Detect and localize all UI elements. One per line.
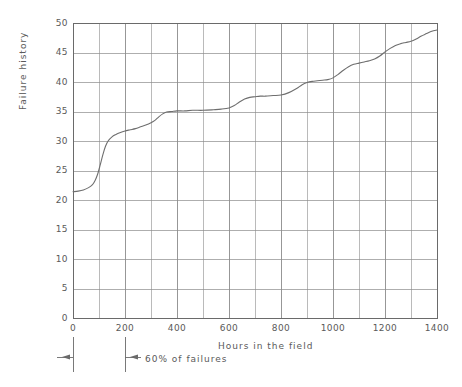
gridlines <box>73 23 438 319</box>
annotation-arrowhead-left <box>62 354 70 359</box>
plot-frame <box>73 23 437 318</box>
plot-area <box>0 0 462 387</box>
annotation-dimension-arrows <box>57 337 141 372</box>
annotation-arrowhead-right <box>130 354 138 359</box>
failure-history-chart: Failure history Hours in the field 60% o… <box>0 0 462 387</box>
failure-history-curve <box>73 30 437 192</box>
